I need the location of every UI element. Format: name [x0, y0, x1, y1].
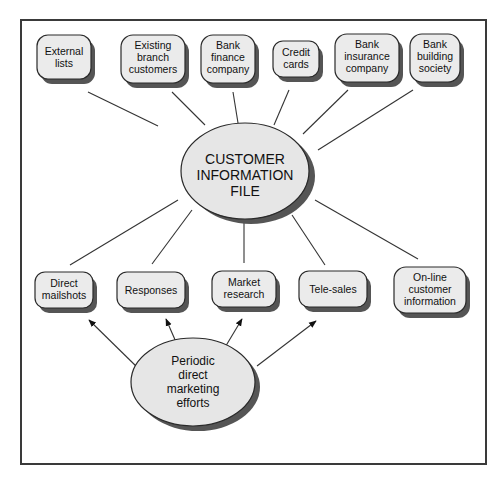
channel-node-tele-sales: Tele-sales [299, 271, 371, 312]
svg-text:Creditcards: Creditcards [282, 46, 310, 70]
svg-text:Tele-sales: Tele-sales [309, 283, 356, 295]
source-node-credit-cards: Creditcards [273, 41, 323, 82]
center-node-customer-information-file: CUSTOMERINFORMATIONFILE [181, 123, 315, 224]
svg-text:Marketresearch: Marketresearch [224, 276, 265, 300]
source-node-existing-branch-customers: Existingbranchcustomers [121, 35, 189, 88]
driver-node-periodic-direct-marketing-efforts: Periodicdirectmarketingefforts [131, 338, 260, 431]
source-node-bank-insurance-company: Bankinsurancecompany [335, 34, 403, 87]
channel-node-market-research: Marketresearch [212, 271, 280, 312]
channel-node-direct-mailshots: Directmailshots [35, 272, 97, 313]
customer-information-diagram: Externallists Existingbranchcustomers Ba… [0, 0, 501, 480]
channel-node-responses: Responses [117, 272, 189, 313]
svg-text:Responses: Responses [125, 284, 178, 296]
source-node-bank-finance-company: Bankfinancecompany [201, 35, 259, 88]
channel-node-online-customer-information: On-linecustomerinformation [394, 267, 470, 318]
source-node-external-lists: Externallists [37, 35, 95, 84]
source-node-bank-building-society: Bankbuildingsociety [410, 34, 464, 87]
